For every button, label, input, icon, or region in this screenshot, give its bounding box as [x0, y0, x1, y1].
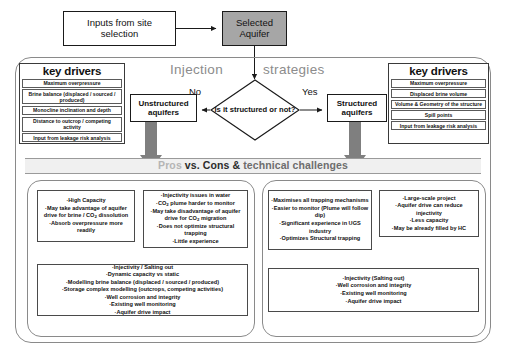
- key-driver-item: Maximum overpressure: [391, 79, 486, 88]
- structured-pros-box: ·Maximises all trapping mechanisms ·Easi…: [268, 190, 372, 250]
- diagram-canvas: Inputs from site selection Selected Aqui…: [0, 0, 505, 353]
- decision-diamond: Is it structured or not?: [210, 79, 300, 141]
- list-item: ·Injectivity / Salting out: [40, 264, 245, 272]
- list-item: ·Aquifer drive impact: [271, 298, 476, 306]
- unstructured-technical-box: ·Injectivity / Salting out ·Dynamic capa…: [37, 264, 248, 316]
- list-item: ·Little experience: [146, 238, 245, 246]
- list-item: ·Aquifer drive impact: [40, 309, 245, 317]
- list-item: ·Large-scale project: [382, 195, 476, 203]
- list-item: ·Absorb overpressure more readily: [40, 220, 132, 235]
- list-item: ·Maximises all trapping mechanisms: [271, 197, 369, 205]
- list-item: ·Well corrosion and integrity: [40, 294, 245, 302]
- band-cons-word: Cons &: [203, 159, 240, 171]
- decision-label: Is it structured or not?: [210, 105, 300, 114]
- key-driver-item: Input from leakage risk analysis: [22, 133, 122, 142]
- key-driver-item: Volume & Geometry of the structure: [391, 100, 486, 109]
- key-driver-item: Maximum overpressure: [22, 79, 122, 88]
- structured-technical-box: ·Injectivity (Salting out) ·Well corrosi…: [268, 268, 479, 312]
- list-item: ·May take advantage of aquifer drive for…: [40, 205, 132, 220]
- structured-aquifers-box: Structured aquifers: [327, 94, 387, 122]
- list-item: ·Dynamic capacity vs static: [40, 271, 245, 279]
- list-item: ·Injectivity (Salting out): [271, 275, 476, 283]
- list-item: ·CO2 plume harder to monitor: [146, 200, 245, 208]
- list-item: ·High Capacity: [40, 197, 132, 205]
- injection-label: Injection: [170, 62, 223, 77]
- inputs-from-site-selection-box: Inputs from site selection: [63, 11, 176, 46]
- list-item: ·Modelling brine balance (displaced / so…: [40, 279, 245, 287]
- list-item: ·Easier to monitor (Plume will follow di…: [271, 205, 369, 220]
- pros-cons-band-title: Pros vs. Cons & technical challenges: [25, 158, 481, 172]
- band-vs-word: vs.: [185, 159, 200, 171]
- key-drivers-right-panel: key drivers Maximum overpressure Displac…: [388, 63, 489, 144]
- key-driver-item: Brine balance (displaced / sourced / pro…: [22, 89, 122, 104]
- key-driver-item: Distance to outcrop / competing activity: [22, 117, 122, 132]
- key-driver-item: Displaced brine volume: [391, 89, 486, 98]
- strategies-label: strategies: [263, 62, 325, 77]
- list-item: ·Does not optimize structural trapping: [146, 223, 245, 238]
- key-drivers-left-title: key drivers: [21, 65, 123, 78]
- selected-aquifer-box: Selected Aquifer: [222, 11, 287, 46]
- branch-label-yes: Yes: [302, 86, 318, 97]
- list-item: ·Aquifer drive can reduce injectivity: [382, 202, 476, 217]
- band-tail-word: technical challenges: [243, 159, 348, 171]
- list-item: ·May be already filled by HC: [382, 225, 476, 233]
- structured-cons-box: ·Large-scale project ·Aquifer drive can …: [379, 190, 479, 237]
- unstructured-pros-box: ·High Capacity ·May take advantage of aq…: [37, 190, 135, 242]
- key-driver-item: Spill points: [391, 110, 486, 119]
- list-item: ·Optimizes Structural trapping: [271, 235, 369, 243]
- list-item: ·Injectivity issues in water: [146, 192, 245, 200]
- key-driver-item: Input from leakage risk analysis: [391, 121, 486, 130]
- list-item: ·Existing well monitoring: [40, 301, 245, 309]
- list-item: ·May take disadvantage of aquifer drive …: [146, 208, 245, 223]
- key-drivers-right-title: key drivers: [390, 65, 487, 78]
- key-driver-item: Monocline inclination and depth: [22, 106, 122, 115]
- list-item: ·Significant experience in UGS industry: [271, 220, 369, 235]
- unstructured-aquifers-box: Unstructured aquifers: [130, 94, 197, 122]
- list-item: ·Storage complex modelling (outcrops, co…: [40, 286, 245, 294]
- band-pros-word: Pros: [158, 159, 182, 171]
- list-item: ·Less capacity: [382, 217, 476, 225]
- unstructured-cons-box: ·Injectivity issues in water ·CO2 plume …: [143, 190, 248, 248]
- key-drivers-left-panel: key drivers Maximum overpressure Brine b…: [19, 63, 125, 144]
- list-item: ·Existing well monitoring: [271, 290, 476, 298]
- list-item: ·Well corrosion and integrity: [271, 282, 476, 290]
